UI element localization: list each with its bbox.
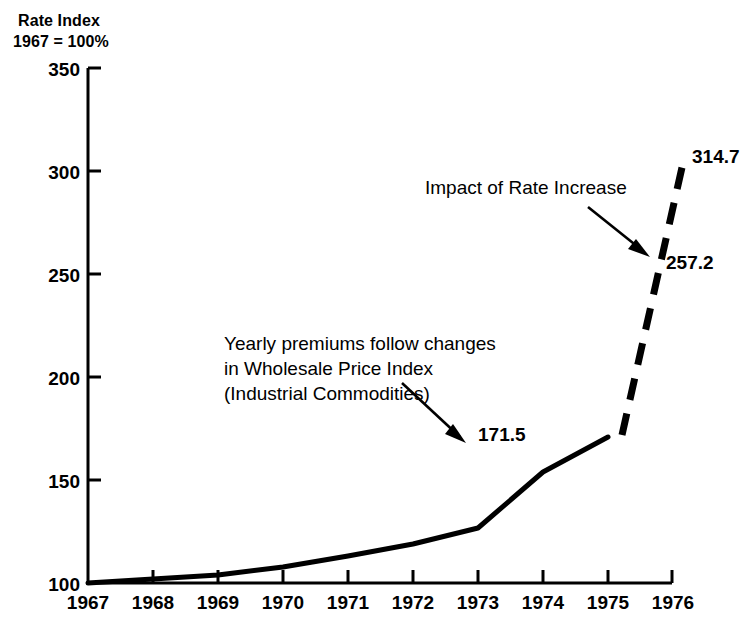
plot-area: [0, 0, 753, 634]
point-label-314-7: 314.7: [692, 146, 740, 168]
premium-annotation-line-2: in Wholesale Price Index: [224, 356, 496, 381]
series-projection-line: [622, 163, 683, 435]
rate-increase-annotation-line-1: Impact of Rate Increase: [425, 175, 627, 200]
rate-index-chart: Rate Index 1967 = 100% 350 300 250 200 1…: [0, 0, 753, 634]
rate-increase-annotation: Impact of Rate Increase: [425, 175, 627, 200]
premium-annotation-line-3: (Industrial Commodities): [224, 381, 496, 406]
point-label-171-5: 171.5: [478, 424, 526, 446]
rate-increase-annotation-arrow: [588, 207, 650, 257]
y-axis-ticks: [88, 68, 101, 480]
series-actual-line: [88, 437, 608, 583]
premium-annotation-line-1: Yearly premiums follow changes: [224, 331, 496, 356]
premium-annotation: Yearly premiums follow changes in Wholes…: [224, 331, 496, 406]
point-label-257-2: 257.2: [666, 252, 714, 274]
